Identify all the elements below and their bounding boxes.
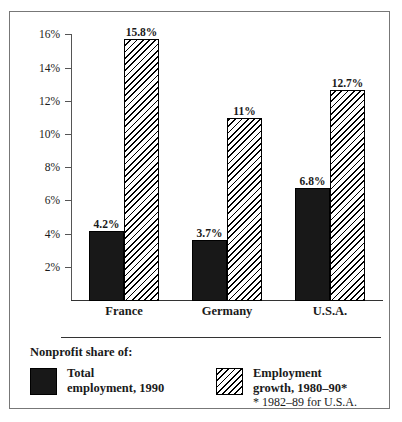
- y-tick-16: 16%: [65, 34, 72, 35]
- bar-usa-employment-growth[interactable]: 12.7%: [330, 90, 365, 301]
- y-tick-6: 6%: [65, 200, 72, 201]
- x-axis-label-germany: Germany: [192, 304, 262, 319]
- bar-usa-total-employment[interactable]: 6.8%: [295, 188, 330, 301]
- legend-label-total-employment: Total employment, 1990: [67, 366, 164, 395]
- bar-france-total-employment[interactable]: 4.2%: [89, 231, 124, 301]
- y-tick-label-8: 8%: [45, 158, 60, 176]
- bar-label-germany-total-employment: 3.7%: [197, 227, 223, 240]
- legend-footnote: * 1982–89 for U.S.A.: [253, 395, 357, 409]
- y-tick-label-4: 4%: [45, 225, 60, 243]
- bar-germany-total-employment[interactable]: 3.7%: [192, 240, 227, 301]
- bar-label-france-total-employment: 4.2%: [94, 218, 120, 231]
- bar-label-usa-total-employment: 6.8%: [300, 175, 326, 188]
- legend-divider: [61, 337, 381, 338]
- legend-label-line1: Employment: [253, 366, 322, 380]
- plot-area: 2% 4% 6% 8% 10% 12% 14% 16%: [10, 12, 391, 312]
- chart-figure: 2% 4% 6% 8% 10% 12% 14% 16%: [9, 11, 390, 409]
- y-tick-12: 12%: [65, 101, 72, 102]
- x-axis-label-france: France: [89, 304, 159, 319]
- legend-label-line2: employment, 1990: [67, 381, 164, 395]
- y-tick-0: [65, 300, 72, 301]
- y-tick-label-2: 2%: [45, 258, 60, 276]
- legend-label-line2: growth, 1980–90*: [253, 381, 347, 395]
- bar-label-france-employment-growth: 15.8%: [126, 26, 158, 39]
- y-tick-2: 2%: [65, 267, 72, 268]
- y-tick-14: 14%: [65, 68, 72, 69]
- y-tick-label-14: 14%: [39, 59, 60, 77]
- bar-label-usa-employment-growth: 12.7%: [332, 77, 364, 90]
- x-axis-label-usa: U.S.A.: [295, 304, 365, 319]
- y-tick-8: 8%: [65, 167, 72, 168]
- legend-label-employment-growth: Employment growth, 1980–90*: [253, 366, 347, 395]
- y-tick-label-10: 10%: [39, 125, 60, 143]
- y-tick-4: 4%: [65, 234, 72, 235]
- y-tick-label-6: 6%: [45, 191, 60, 209]
- bar-label-germany-employment-growth: 11%: [233, 105, 255, 118]
- y-tick-10: 10%: [65, 134, 72, 135]
- y-tick-label-16: 16%: [39, 25, 60, 43]
- bar-germany-employment-growth[interactable]: 11%: [227, 118, 262, 301]
- legend-swatch-hatch-icon: [216, 368, 243, 395]
- legend-label-line1: Total: [67, 366, 94, 380]
- y-tick-label-12: 12%: [39, 92, 60, 110]
- legend-title: Nonprofit share of:: [30, 345, 132, 360]
- legend-swatch-solid-icon: [30, 368, 57, 395]
- bar-france-employment-growth[interactable]: 15.8%: [124, 39, 159, 301]
